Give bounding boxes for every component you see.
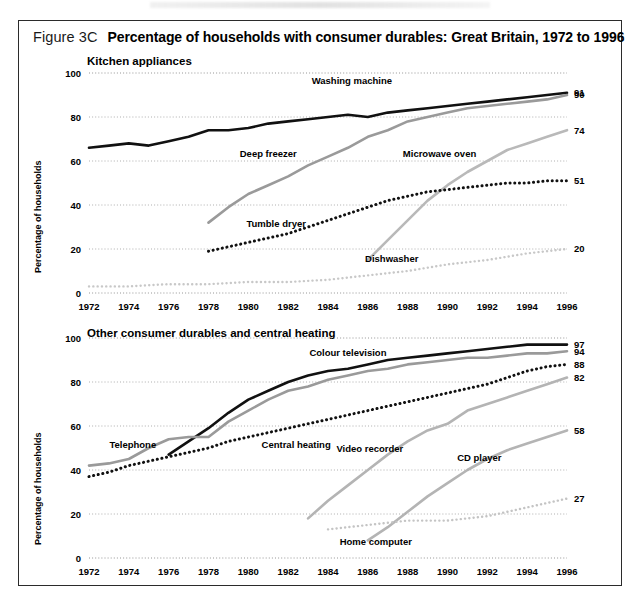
chart-xtick: 1992 — [477, 566, 498, 577]
chart-ytick: 20 — [70, 244, 81, 255]
chart-xtick: 1990 — [437, 566, 458, 577]
series-label: Deep freezer — [240, 148, 297, 159]
series-end-value: 58 — [574, 425, 585, 436]
chart-ytick: 20 — [70, 509, 81, 520]
chart-1-plot: 0204060801001972197419761978198019821984… — [19, 55, 623, 321]
chart-xtick: 1984 — [317, 566, 339, 577]
figure-page: Figure 3C Percentage of households with … — [0, 0, 640, 609]
chart-xtick: 1996 — [556, 301, 577, 312]
figure-title-row: Figure 3C Percentage of households with … — [33, 29, 619, 51]
series-end-value: 90 — [574, 89, 585, 100]
series-end-value: 74 — [574, 125, 585, 136]
chart-panel-other-durables: Other consumer durables and central heat… — [19, 327, 623, 585]
chart-xtick: 1974 — [118, 566, 140, 577]
chart-xtick: 1990 — [437, 301, 458, 312]
chart-ytick: 100 — [65, 68, 81, 79]
chart-ytick: 0 — [76, 553, 81, 564]
chart-xtick: 1974 — [118, 301, 140, 312]
series-label: Home computer — [340, 536, 413, 547]
series-line — [89, 93, 567, 148]
page-top-artifact — [150, 2, 490, 8]
chart-xtick: 1972 — [78, 301, 99, 312]
chart-xtick: 1978 — [198, 566, 219, 577]
chart-xtick: 1978 — [198, 301, 219, 312]
series-label: Colour television — [309, 347, 386, 358]
chart-xtick: 1972 — [78, 566, 99, 577]
chart-xtick: 1976 — [158, 301, 179, 312]
figure-title: Percentage of households with consumer d… — [108, 29, 625, 45]
chart-ytick: 100 — [65, 333, 81, 344]
chart-xtick: 1980 — [238, 301, 259, 312]
series-end-value: 27 — [574, 493, 585, 504]
series-end-value: 51 — [574, 175, 585, 186]
chart-ytick: 0 — [76, 288, 81, 299]
series-label: CD player — [457, 452, 502, 463]
chart-xtick: 1994 — [517, 301, 539, 312]
chart-ytick: 60 — [70, 421, 81, 432]
figure-frame: Figure 3C Percentage of households with … — [18, 20, 622, 586]
series-label: Video recorder — [336, 443, 403, 454]
chart-xtick: 1996 — [556, 566, 577, 577]
series-line — [89, 249, 567, 286]
series-label: Microwave oven — [403, 148, 477, 159]
chart-xtick: 1986 — [357, 301, 378, 312]
chart-xtick: 1986 — [357, 566, 378, 577]
figure-number: Figure 3C — [33, 29, 98, 45]
series-end-value: 88 — [574, 359, 585, 370]
chart-xtick: 1976 — [158, 566, 179, 577]
series-label: Washing machine — [312, 75, 392, 86]
series-end-value: 20 — [574, 243, 585, 254]
chart-xtick: 1992 — [477, 301, 498, 312]
series-label: Telephone — [109, 439, 156, 450]
chart-ytick: 40 — [70, 465, 81, 476]
series-label: Tumble dryer — [246, 218, 306, 229]
series-label: Central heating — [262, 439, 331, 450]
chart-ytick: 60 — [70, 156, 81, 167]
chart-xtick: 1988 — [397, 566, 418, 577]
series-line — [328, 499, 567, 530]
series-line — [209, 95, 568, 223]
chart-2-plot: 0204060801001972197419761978198019821984… — [19, 327, 623, 585]
series-end-value: 82 — [574, 372, 585, 383]
chart-xtick: 1980 — [238, 566, 259, 577]
chart-xtick: 1982 — [278, 301, 299, 312]
series-label: Dishwasher — [365, 253, 419, 264]
series-line — [169, 345, 567, 455]
series-end-value: 94 — [574, 346, 585, 357]
chart-ytick: 80 — [70, 112, 81, 123]
chart-xtick: 1984 — [317, 301, 339, 312]
chart-panel-kitchen-appliances: Kitchen appliances Percentage of househo… — [19, 55, 623, 321]
chart-ytick: 80 — [70, 377, 81, 388]
chart-xtick: 1988 — [397, 301, 418, 312]
chart-xtick: 1994 — [517, 566, 539, 577]
chart-ytick: 40 — [70, 200, 81, 211]
chart-xtick: 1982 — [278, 566, 299, 577]
